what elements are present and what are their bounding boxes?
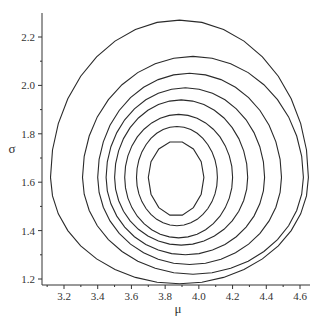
contour-plot: 3.23.43.63.84.04.24.44.6 1.21.41.61.82.0… xyxy=(0,0,321,327)
x-tick-label: 3.4 xyxy=(91,290,105,302)
contour-line xyxy=(106,88,265,255)
y-tick-label: 2.0 xyxy=(21,79,35,91)
y-ticks: 1.21.41.61.82.02.2 xyxy=(21,31,42,285)
contour-line xyxy=(125,114,233,237)
contour-line xyxy=(115,100,248,245)
x-ticks: 3.23.43.63.84.04.24.44.6 xyxy=(47,285,307,302)
x-tick-label: 3.6 xyxy=(125,290,139,302)
x-axis-label: μ xyxy=(175,301,182,316)
x-tick-label: 3.2 xyxy=(57,290,71,302)
y-axis-label: σ xyxy=(8,141,15,156)
y-tick-label: 2.2 xyxy=(21,31,35,43)
x-tick-label: 4.2 xyxy=(226,290,240,302)
x-tick-label: 4.0 xyxy=(192,290,206,302)
y-tick-label: 1.8 xyxy=(21,128,35,140)
x-tick-label: 4.6 xyxy=(293,290,307,302)
contour-line xyxy=(51,20,309,284)
y-tick-label: 1.2 xyxy=(21,273,35,285)
y-tick-label: 1.4 xyxy=(21,225,35,237)
contour-line xyxy=(148,142,204,215)
x-tick-label: 4.4 xyxy=(259,290,273,302)
contour-lines xyxy=(51,20,309,284)
y-tick-label: 1.6 xyxy=(21,176,35,188)
x-tick-label: 3.8 xyxy=(158,290,172,302)
